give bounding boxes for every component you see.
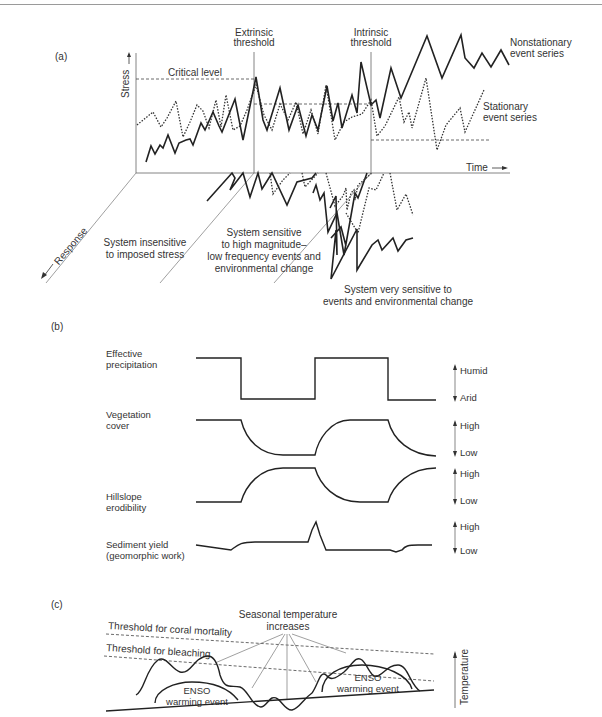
seasonal-label-2: increases [267, 621, 310, 632]
erodibility-label-1: Hillslope [106, 491, 142, 502]
erodibility-label-2: erodibility [106, 502, 146, 513]
sediment-high-label: High [460, 521, 480, 532]
temperature-arrowhead-icon [453, 651, 457, 658]
scale-erodibility: High Low [453, 468, 480, 506]
panel-a: (a) Stress Time Extrinsic threshold Intr… [41, 27, 572, 307]
time-axis-label: Time [466, 162, 488, 173]
vegetation-high-label: High [460, 420, 480, 431]
panel-b-label: (b) [51, 321, 63, 332]
time-arrowhead-icon [502, 166, 508, 170]
enso-left-label-1: ENSO [184, 685, 211, 696]
bleaching-label: Threshold for bleaching [106, 642, 211, 659]
response-solid-zone3b [330, 196, 413, 279]
temperature-axis-label: Temperature [459, 648, 470, 705]
vegetation-label-2: cover [106, 420, 129, 431]
stationary-label-2: event series [483, 112, 537, 123]
response-solid-zone3 [313, 173, 367, 255]
enso-right-label-1: ENSO [355, 672, 382, 683]
zone3-line1: System very sensitive to [344, 284, 452, 295]
nonstationary-series [146, 35, 509, 162]
precip-label-2: precipitation [106, 359, 157, 370]
stress-axis-label: Stress [120, 70, 131, 98]
nonstationary-label-2: event series [510, 48, 564, 59]
zone2-line3: low frequency events and [207, 251, 320, 262]
svg-text:Temperature: Temperature [459, 648, 470, 705]
intrinsic-threshold-label-2: threshold [350, 37, 391, 48]
arid-label: Arid [460, 392, 477, 403]
panel-b: (b) Effective precipitation Vegetation c… [51, 321, 487, 561]
zone2-line4: environmental change [215, 263, 314, 274]
critical-level-label: Critical level [168, 67, 222, 78]
zone1-line2: to imposed stress [106, 249, 184, 260]
sediment-low-label: Low [460, 545, 478, 556]
panel-c-label: (c) [51, 599, 63, 610]
sediment-label-2: (geomorphic work) [106, 550, 185, 561]
sediment-label-1: Sediment yield [106, 539, 168, 550]
svg-text:Response: Response [52, 225, 90, 267]
zone1-line1: System insensitive [104, 237, 187, 248]
sediment-curve [196, 522, 432, 552]
precip-label-1: Effective [106, 348, 142, 359]
erodibility-curve [196, 468, 436, 502]
humid-label: Humid [460, 365, 487, 376]
diagram-canvas: (a) Stress Time Extrinsic threshold Intr… [0, 0, 602, 717]
seasonal-label-1: Seasonal temperature [239, 609, 338, 620]
panel-c: (c) Seasonal temperature increases Thres… [51, 599, 470, 711]
zone2-line1: System sensitive [226, 227, 301, 238]
vegetation-low-label: Low [460, 447, 478, 458]
svg-text:Stress: Stress [120, 70, 131, 98]
vegetation-curve [196, 420, 436, 456]
scale-precip: Humid Arid [453, 364, 487, 403]
erodibility-low-label: Low [460, 495, 478, 506]
vegetation-label-1: Vegetation [106, 409, 151, 420]
stress-arrowhead-icon [127, 52, 131, 57]
response-axis-label: Response [52, 225, 90, 267]
scale-sediment: High Low [453, 521, 480, 556]
extrinsic-threshold-label-2: threshold [233, 37, 274, 48]
erodibility-high-label: High [460, 468, 480, 479]
response-solid-zone2 [207, 173, 316, 205]
zone2-line2: to high magnitude– [221, 239, 307, 250]
zone3-line2: events and environmental change [323, 296, 474, 307]
scale-vegetation: High Low [453, 420, 480, 458]
stationary-label-1: Stationary [483, 101, 528, 112]
panel-a-label: (a) [55, 51, 67, 62]
nonstationary-label-1: Nonstationary [510, 37, 572, 48]
precipitation-curve [196, 358, 436, 400]
seasonal-leader-lines [215, 634, 346, 700]
